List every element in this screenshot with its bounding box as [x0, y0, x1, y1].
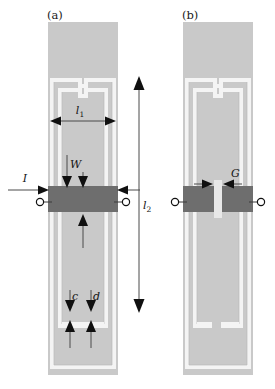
diagram-svg: (a) l1 W I [0, 0, 275, 389]
panel-a-left-terminal [36, 198, 43, 205]
dimension-d-label: d [93, 290, 100, 303]
panel-b: (b) G [171, 8, 264, 375]
current-I-label: I [22, 172, 28, 185]
dimension-c-label: c [72, 290, 78, 303]
panel-a-right-terminal [122, 198, 129, 205]
panel-b-left-terminal [171, 198, 178, 205]
panel-b-right-terminal [257, 198, 264, 205]
panel-b-feed-bar-left [183, 186, 214, 212]
panel-b-bottom-notch [212, 320, 221, 329]
panel-b-feed-bar-right [222, 186, 253, 212]
panel-b-feed-gap [214, 180, 222, 218]
dimension-G-label: G [231, 167, 240, 180]
dimension-W-label: W [70, 158, 83, 171]
figure-container: (a) l1 W I [0, 0, 275, 389]
panel-a-feed-bar [48, 186, 118, 212]
panel-a-label: (a) [47, 8, 63, 22]
panel-b-label: (b) [182, 8, 198, 22]
